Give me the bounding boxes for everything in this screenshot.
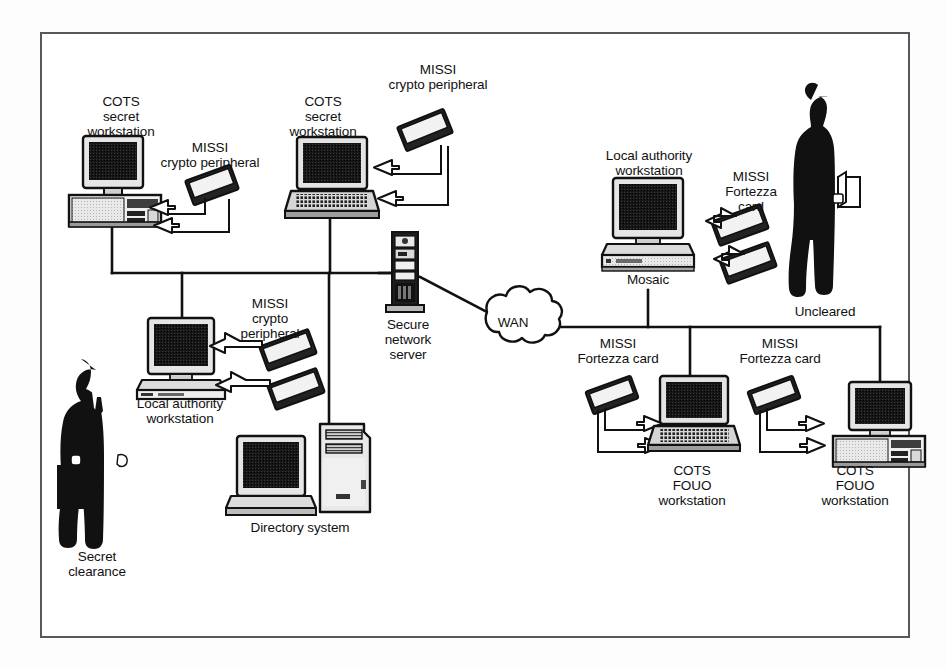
label-mosaic: Mosaic	[618, 272, 678, 287]
node-missi-fortezza-card-pair	[706, 204, 777, 284]
node-local-authority-workstation-right	[602, 178, 694, 271]
label-local-authority-workstation-right: Local authority workstation	[588, 148, 710, 178]
label-missi-fortezza-card-3: MISSI Fortezza card	[728, 336, 832, 366]
label-local-authority-workstation-left: Local authority workstation	[118, 396, 242, 426]
node-cots-secret-workstation-laptop	[285, 137, 379, 218]
node-cots-fouo-workstation-laptop	[648, 376, 740, 451]
node-missi-fortezza-card-3	[747, 376, 825, 453]
node-cots-fouo-workstation-desktop	[833, 382, 925, 467]
label-missi-fortezza-card-2: MISSI Fortezza card	[566, 336, 670, 366]
label-missi-crypto-peripheral-3: MISSI crypto peripheral	[222, 296, 318, 341]
node-secure-network-server	[386, 232, 424, 312]
label-uncleared: Uncleared	[784, 304, 866, 319]
node-local-authority-workstation-left	[137, 318, 225, 399]
label-missi-fortezza-card-1: MISSI Fortezza card	[715, 169, 787, 214]
node-directory-system	[226, 424, 370, 515]
label-cots-fouo-workstation-2: COTS FOUO workstation	[800, 463, 910, 508]
label-missi-crypto-peripheral-2: MISSI crypto peripheral	[368, 62, 508, 92]
label-secure-network-server: Secure network server	[368, 317, 448, 362]
label-cots-secret-workstation-left: COTS secret workstation	[66, 94, 176, 139]
label-missi-crypto-peripheral-1: MISSI crypto peripheral	[140, 140, 280, 170]
label-directory-system: Directory system	[224, 520, 376, 535]
diagram-canvas: COTS secret workstation MISSI crypto per…	[0, 0, 946, 670]
node-secret-clearance-person-silhouette	[58, 359, 127, 549]
label-secret-clearance: Secret clearance	[52, 549, 142, 579]
label-wan: WAN	[487, 315, 539, 330]
node-missi-crypto-peripheral-1	[150, 165, 239, 233]
node-missi-crypto-peripheral-2	[374, 109, 453, 206]
node-uncleared-person-silhouette	[789, 83, 860, 297]
label-cots-fouo-workstation-1: COTS FOUO workstation	[637, 463, 747, 508]
label-cots-secret-workstation-mid: COTS secret workstation	[268, 94, 378, 139]
